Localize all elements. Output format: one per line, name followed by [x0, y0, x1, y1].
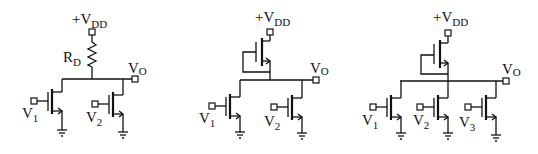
circuit-3: +VDD VO V1 V2 V3 [362, 9, 521, 141]
ground-icon [443, 133, 453, 139]
vo-terminal [503, 78, 509, 84]
nmos-load [421, 36, 448, 98]
ground-icon [297, 133, 307, 139]
vo-label: VO [310, 60, 329, 77]
vdd-label: +VDD [72, 11, 107, 30]
ground-icon [396, 133, 406, 139]
ground-icon [491, 135, 501, 141]
vdd-terminal [89, 29, 95, 35]
nmos-load [243, 35, 270, 80]
v1-label: V1 [22, 105, 38, 124]
v1-label: V1 [199, 110, 215, 129]
nmos-m1 [209, 94, 240, 119]
v3-label: V3 [459, 114, 476, 133]
nmos-m1 [31, 89, 62, 114]
vo-terminal [132, 76, 138, 82]
v2-label: V2 [86, 109, 102, 128]
vdd-terminal [267, 29, 273, 35]
v1-label: V1 [362, 112, 378, 131]
circuit-1: +VDD RD VO V1 V2 [22, 11, 147, 138]
v2-label: V2 [264, 113, 280, 132]
circuit-diagram: +VDD RD VO V1 V2 +VDD [0, 0, 538, 154]
nmos-m1 [370, 95, 401, 120]
ground-icon [118, 132, 128, 138]
nmos-m2 [271, 95, 302, 120]
vdd-label: +VDD [255, 9, 290, 28]
resistor-rd [88, 42, 96, 67]
ground-icon [57, 130, 67, 136]
vo-label: VO [128, 60, 147, 77]
vdd-label: +VDD [433, 9, 468, 28]
vo-terminal [313, 77, 319, 83]
vdd-terminal [445, 30, 451, 36]
circuit-2: +VDD VO V1 V2 [199, 9, 329, 139]
rd-label: RD [63, 49, 81, 68]
vo-label: VO [502, 61, 521, 78]
v2-label: V2 [413, 112, 429, 131]
ground-icon [235, 132, 245, 138]
